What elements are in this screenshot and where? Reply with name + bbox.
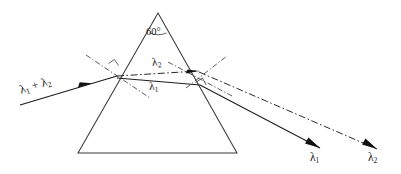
entry-right-angle-marker — [109, 60, 119, 66]
exit-ray-lambda2 — [199, 72, 377, 149]
exit-ray-lambda1-label: λ1 — [310, 152, 319, 165]
internal-ray-lambda2-label: λ2 — [151, 56, 162, 70]
internal-upper-lambda-subscript: 2 — [157, 60, 162, 69]
internal-ray-lambda2-arrowhead — [186, 69, 199, 73]
exit-lambda1-subscript: 1 — [316, 156, 320, 165]
exit-surface-normal — [168, 62, 232, 96]
exit-lambda2-subscript: 2 — [374, 156, 378, 165]
internal-ray-lambda1 — [117, 78, 200, 85]
prism-dispersion-figure: 60° λ1 + λ2 λ2 λ1 λ1 λ2 — [0, 0, 401, 174]
exit-ray-lambda2-arrowhead — [362, 139, 377, 150]
exit-ray-lambda2-label: λ2 — [368, 152, 377, 165]
internal-lower-lambda-subscript: 1 — [154, 85, 158, 94]
internal-ray-lambda1-label: λ1 — [149, 81, 159, 94]
diagram-canvas — [0, 0, 401, 174]
incident-ray-arrowhead — [78, 82, 92, 87]
exit-ray-lambda1-arrowhead — [305, 138, 320, 149]
entry-surface-normal — [86, 55, 150, 98]
apex-angle-label: 60° — [146, 27, 161, 38]
